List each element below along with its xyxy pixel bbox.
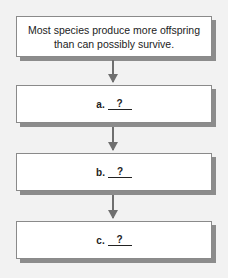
step-a-letter: a. <box>96 99 104 110</box>
start-box: Most species produce more offspring than… <box>16 16 212 57</box>
step-b-box: b. ? <box>16 153 212 191</box>
step-a-box: a. ? <box>16 85 212 123</box>
step-b-blank: ? <box>108 166 132 178</box>
down-arrow-icon <box>112 60 114 82</box>
start-text: Most species produce more offspring than… <box>23 23 205 51</box>
step-c-blank: ? <box>108 234 132 246</box>
down-arrow-icon <box>112 195 114 218</box>
step-c-box: c. ? <box>16 221 212 259</box>
step-b-letter: b. <box>96 167 105 178</box>
step-c-letter: c. <box>96 235 104 246</box>
step-a-blank: ? <box>108 98 132 110</box>
down-arrow-icon <box>112 127 114 150</box>
